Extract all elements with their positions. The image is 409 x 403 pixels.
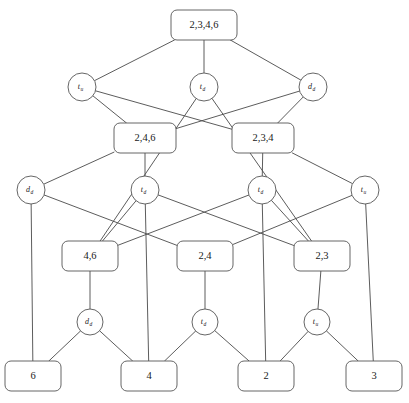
lattice-edge (49, 331, 81, 361)
concept-box-label: 2,3,4,6 (190, 19, 219, 30)
concept-box-label: 4,6 (83, 250, 96, 261)
lattice-edge (278, 97, 303, 123)
concept-box-3[interactable]: 3 (346, 361, 402, 391)
operator-node-td[interactable]: td (192, 309, 218, 335)
concept-box-2-3-4[interactable]: 2,3,4 (232, 123, 294, 153)
lattice-edge (118, 195, 249, 245)
lattice-edge (280, 331, 308, 361)
lattice-edge (103, 201, 137, 241)
operator-node-td[interactable]: td (190, 73, 218, 101)
lattice-edge (93, 96, 127, 123)
operator-node-subscript: d (30, 189, 33, 195)
lattice-edge (215, 331, 249, 361)
operator-node-subscript: d (312, 86, 315, 92)
lattice-edge (233, 195, 352, 244)
lattice-graph-canvas: 2,3,4,62,4,62,3,44,62,42,36423tutdddddtd… (0, 0, 409, 403)
concept-box-label: 2,4 (198, 250, 212, 261)
node-layer: 2,3,4,62,4,62,3,44,62,42,36423tutdddddtd… (5, 10, 402, 391)
concept-box-6[interactable]: 6 (5, 361, 61, 391)
operator-node-subscript: u (80, 86, 83, 92)
lattice-edge (212, 98, 312, 241)
concept-box-label: 2,3,4 (253, 132, 275, 143)
concept-box-2[interactable]: 2 (238, 361, 294, 391)
concept-box-label: 3 (371, 370, 376, 381)
operator-node-subscript: u (363, 189, 366, 195)
lattice-edge (44, 195, 177, 245)
operator-node-subscript: d (89, 321, 92, 327)
concept-lattice-diagram: 2,3,4,62,4,62,3,44,62,42,36423tutdddddtd… (0, 0, 409, 403)
lattice-edge (94, 40, 174, 81)
operator-node-subscript: d (203, 321, 206, 327)
lattice-edge (100, 331, 133, 361)
lattice-edge (165, 331, 196, 361)
concept-box-4-6[interactable]: 4,6 (62, 241, 118, 271)
concept-box-2-3[interactable]: 2,3 (294, 241, 350, 271)
operator-node-subscript: d (143, 189, 146, 195)
operator-node-subscript: d (260, 189, 263, 195)
concept-box-2-4[interactable]: 2,4 (177, 241, 233, 271)
operator-node-tu[interactable]: tu (304, 309, 330, 335)
operator-node-td[interactable]: td (248, 176, 276, 204)
lattice-edge (230, 40, 300, 80)
operator-node-dd[interactable]: dd (17, 176, 45, 204)
concept-box-label: 2,3 (315, 250, 328, 261)
concept-box-label: 2,4,6 (135, 132, 156, 143)
concept-box-2-4-6[interactable]: 2,4,6 (114, 123, 176, 153)
lattice-edge (31, 204, 33, 361)
concept-box-label: 4 (146, 370, 152, 381)
operator-node-subscript: u (315, 321, 318, 327)
concept-box-2-3-4-6[interactable]: 2,3,4,6 (171, 10, 237, 40)
operator-node-subscript: d (202, 86, 205, 92)
lattice-edge (366, 204, 374, 361)
concept-box-label: 2 (263, 370, 268, 381)
operator-node-dd[interactable]: dd (299, 73, 327, 101)
lattice-edge (262, 204, 265, 361)
lattice-edge (326, 331, 358, 361)
operator-node-dd[interactable]: dd (77, 309, 103, 335)
operator-node-tu[interactable]: tu (68, 73, 96, 101)
lattice-edge (100, 99, 196, 241)
lattice-edge (145, 204, 148, 361)
lattice-edge (318, 271, 321, 309)
operator-node-tu[interactable]: tu (351, 176, 379, 204)
lattice-edge (44, 152, 114, 184)
lattice-edge (292, 153, 352, 184)
concept-box-4[interactable]: 4 (121, 361, 177, 391)
concept-box-label: 6 (30, 370, 35, 381)
operator-node-td[interactable]: td (131, 176, 159, 204)
